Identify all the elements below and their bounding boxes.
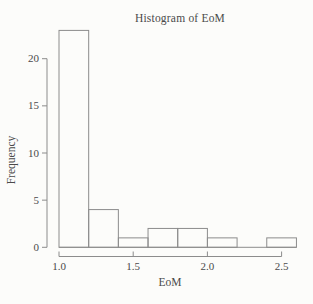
x-tick-label: 1.0	[52, 260, 66, 272]
x-axis-title: EoM	[120, 276, 220, 288]
plot-area: 051015201.01.52.02.5	[0, 0, 313, 304]
histogram-bar	[178, 228, 208, 247]
y-tick-label: 5	[34, 194, 40, 206]
histogram-figure: 051015201.01.52.02.5 Histogram of EoM Fr…	[0, 0, 313, 304]
y-tick-label: 15	[28, 99, 40, 111]
x-tick-label: 2.0	[201, 260, 215, 272]
histogram-bar	[118, 238, 148, 247]
y-axis-title: Frequency	[5, 105, 19, 215]
x-tick-label: 2.5	[275, 260, 289, 272]
x-tick-label: 1.5	[126, 260, 140, 272]
y-tick-label: 20	[28, 52, 40, 64]
y-tick-label: 10	[28, 147, 40, 159]
histogram-bar	[267, 238, 297, 247]
histogram-bar	[59, 30, 89, 247]
histogram-bar	[148, 228, 178, 247]
histogram-bar	[89, 210, 119, 248]
chart-title: Histogram of EoM	[80, 12, 280, 24]
histogram-bar	[207, 238, 237, 247]
y-tick-label: 0	[34, 241, 40, 253]
